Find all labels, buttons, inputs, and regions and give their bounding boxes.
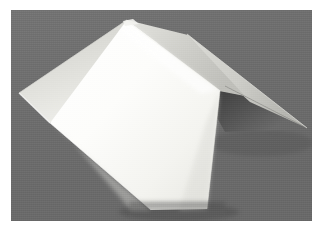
photograph: [11, 10, 312, 221]
paper-fold-illustration: [11, 10, 312, 221]
base-shadow-band: [129, 202, 225, 218]
right-wing-cast-shadow: [209, 130, 312, 156]
photo-frame: Photograph of a zig-zag folded white pap…: [0, 0, 323, 232]
